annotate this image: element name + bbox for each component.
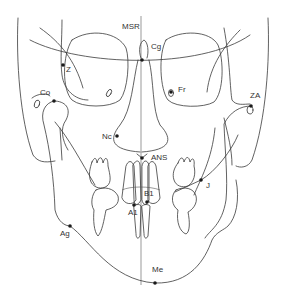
ramus-left-line — [55, 122, 95, 185]
co-process — [33, 99, 40, 108]
label-a1: A1 — [128, 208, 138, 217]
orbit-left — [65, 33, 129, 106]
landmark-fr — [169, 90, 173, 94]
label-j: J — [206, 181, 210, 190]
nasal-cavity-left — [114, 60, 140, 152]
landmark-nc — [115, 134, 119, 138]
label-nc: Nc — [102, 132, 112, 141]
label-ans: ANS — [151, 153, 167, 162]
maxilla-right — [194, 128, 215, 195]
molar-upper-right — [173, 158, 195, 187]
molar-upper-left — [89, 158, 110, 188]
landmark-cg — [140, 58, 144, 62]
label-b1: B1 — [144, 189, 154, 198]
landmark-z — [61, 63, 65, 67]
molar-lower-left — [92, 188, 119, 236]
ramus-left-line2 — [60, 128, 62, 160]
landmark-co — [52, 99, 56, 103]
label-ag: Ag — [60, 229, 70, 238]
foramen-left — [105, 89, 112, 98]
label-cg: Cg — [151, 42, 161, 51]
zygomatic-line-right-b — [224, 28, 250, 104]
cephalometric-diagram: MSR Cg Z Fr Co ZA Nc ANS J B1 A1 Ag Me — [0, 0, 282, 301]
label-za: ZA — [250, 91, 261, 100]
landmark-a1 — [132, 203, 136, 207]
nasal-cavity-right — [142, 60, 168, 152]
landmark-b1 — [145, 200, 149, 204]
landmark-me — [153, 281, 157, 285]
landmark-ag — [68, 224, 72, 228]
incisor-lower-right — [142, 205, 150, 239]
landmark-ans — [140, 156, 144, 160]
zygomatic-line-right-a — [207, 30, 240, 92]
label-z: Z — [66, 65, 71, 74]
label-co: Co — [40, 88, 51, 97]
label-fr: Fr — [178, 85, 186, 94]
landmark-za — [249, 104, 253, 108]
label-me: Me — [152, 265, 164, 274]
landmark-j — [199, 178, 203, 182]
label-msr: MSR — [122, 22, 140, 31]
molar-lower-right — [172, 188, 196, 234]
